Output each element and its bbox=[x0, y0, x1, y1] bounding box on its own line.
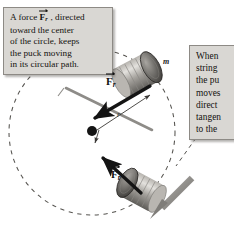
callout-right-line-2: string bbox=[196, 62, 234, 74]
callout-right-line-3: the pu bbox=[196, 74, 234, 86]
force-label-bottom: Fr bbox=[111, 168, 121, 182]
callout-left-line-2: toward the center bbox=[10, 25, 107, 36]
force-subscript: r bbox=[45, 15, 47, 22]
radius-label: r bbox=[117, 110, 120, 119]
callout-left-leader-tick bbox=[58, 88, 64, 96]
callout-right-line-6: tangen bbox=[196, 111, 234, 123]
circular-motion-figure: A force Fr , directed toward the center … bbox=[0, 0, 234, 226]
force-symbol-vector-top: Fr bbox=[106, 75, 116, 87]
force-subscript-top: r bbox=[113, 80, 116, 89]
callout-left-line-1: A force Fr , directed bbox=[10, 12, 107, 25]
vector-arrow-icon-bottom bbox=[111, 164, 120, 168]
center-pivot-dot bbox=[87, 126, 97, 136]
callout-left-line1-suffix: , directed bbox=[48, 12, 84, 22]
callout-left: A force Fr , directed toward the center … bbox=[3, 7, 113, 75]
callout-left-line-5: in its circular path. bbox=[10, 59, 107, 70]
callout-right-line-4: moves bbox=[196, 87, 234, 99]
mass-label: m bbox=[163, 57, 169, 66]
callout-right-line-5: direct bbox=[196, 99, 234, 111]
force-symbol-vector: Fr bbox=[40, 12, 49, 22]
vector-arrow-icon bbox=[39, 8, 48, 12]
callout-right-line-7: to the bbox=[196, 123, 234, 135]
callout-left-line-3: of the circle, keeps bbox=[10, 36, 107, 47]
callout-right-line-1: When bbox=[196, 50, 234, 62]
callout-right-leader bbox=[176, 138, 196, 166]
force-subscript-bottom: r bbox=[118, 173, 121, 182]
callout-right: When string the pu moves direct tangen t… bbox=[189, 45, 234, 140]
vector-arrow-icon-top bbox=[106, 71, 115, 75]
callout-left-line-4: the puck moving bbox=[10, 48, 107, 59]
callout-left-line1-prefix: A force bbox=[10, 12, 40, 22]
force-label-top: Fr bbox=[106, 75, 116, 89]
force-symbol-vector-bottom: Fr bbox=[111, 168, 121, 180]
